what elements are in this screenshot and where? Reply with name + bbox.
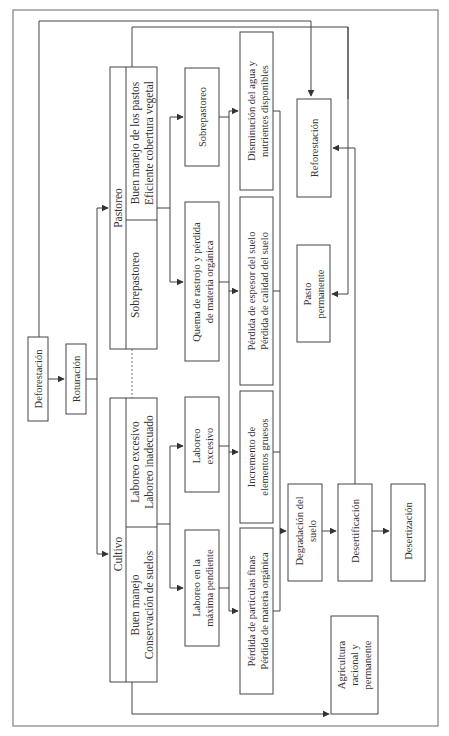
node-label-line-1: Agricultura bbox=[336, 640, 347, 689]
node-perdida-espesor: Pérdida de espesor del suelo Pérdida de … bbox=[240, 197, 273, 385]
group-title: Pastoreo bbox=[112, 188, 124, 228]
practice-good-1: Buen manejo de los pastos bbox=[129, 81, 142, 204]
node-label-line-1: Incremento de bbox=[246, 426, 257, 487]
practice-bad-1: Sobrepastoreo bbox=[129, 252, 142, 318]
node-quema: Quema de rastrojo y pérdida de materia o… bbox=[185, 202, 219, 361]
node-label-line-1: Laboreo bbox=[191, 429, 202, 464]
node-disminucion: Disminución del agua y nutrientes dispon… bbox=[240, 32, 273, 190]
node-label: Deforestación bbox=[33, 349, 44, 409]
node-label-line-2: nutrientes disponibles bbox=[259, 65, 270, 157]
practice-good-1: Buen manejo bbox=[129, 574, 142, 635]
node-desertizacion: Desertización bbox=[391, 484, 425, 581]
node-laboreo-pendiente: Laboreo en la máxima pendiente bbox=[185, 530, 219, 646]
node-label-line-1: Pasto bbox=[302, 283, 313, 306]
node-label-line-2: excesivo bbox=[204, 428, 215, 465]
node-label-line-2: de materia orgánica bbox=[204, 240, 215, 323]
arrow-to-sobrepastoreo bbox=[157, 117, 183, 208]
arrow-desertificacion-to-reforestacion bbox=[333, 148, 355, 484]
node-label: Desertificación bbox=[350, 498, 361, 563]
node-incremento: Incremento de elementos gruesos bbox=[240, 391, 273, 523]
node-agricultura: Agricultura racional y permanente bbox=[331, 616, 378, 714]
node-label-line-1: Disminución del agua y bbox=[246, 60, 257, 161]
node-label-line-2: suelo bbox=[307, 520, 318, 542]
node-perdida-particulas: Pérdida de partículas finas Pérdida de m… bbox=[240, 528, 273, 694]
practice-good-2: Conservación de suelos bbox=[143, 550, 155, 659]
node-label: Reforestación bbox=[309, 118, 320, 177]
practice-bad-2: Laboreo inadecuado bbox=[143, 415, 155, 509]
node-label: Desertización bbox=[403, 501, 414, 559]
node-label-line-2: Pérdida de calidad del suelo bbox=[259, 232, 270, 350]
arrow-to-laboreo-excesivo bbox=[157, 446, 183, 524]
practice-good-2: Eficiente cobertura vegetal bbox=[143, 81, 156, 205]
node-label-line-3: permanente bbox=[362, 640, 373, 689]
node-label-line-1: Laboreo en la bbox=[191, 559, 202, 617]
practice-bad-1: Laboreo excesivo bbox=[129, 421, 141, 503]
node-cultivo-group: Cultivo Laboreo excesivo Laboreo inadecu… bbox=[110, 398, 157, 682]
node-label-line-2: permanente bbox=[315, 269, 326, 318]
node-label-line-2: racional y bbox=[349, 643, 360, 685]
node-reforestacion: Reforestación bbox=[297, 99, 331, 197]
node-label-line-2: Pérdida de materia orgánica bbox=[259, 552, 270, 670]
node-pasto-permanente: Pasto permanente bbox=[297, 245, 330, 342]
node-label-line-1: Degradación del bbox=[294, 496, 305, 565]
node-label: Sobrepastoreo bbox=[197, 87, 208, 147]
node-roturacion: Roturación bbox=[66, 344, 86, 414]
node-pastoreo-group: Pastoreo Buen manejo de los pastos Efici… bbox=[110, 67, 157, 349]
node-label-line-2: máxima pendiente bbox=[204, 549, 215, 627]
arrow-to-pasto-permanente bbox=[332, 27, 348, 294]
arrow-to-agricultura bbox=[132, 682, 329, 714]
node-desertificacion: Desertificación bbox=[338, 484, 372, 581]
arrow-to-quema bbox=[170, 208, 183, 282]
arrow-to-laboreo-pendiente bbox=[170, 524, 183, 588]
node-laboreo-excesivo: Laboreo excesivo bbox=[185, 397, 219, 492]
node-label-line-1: Pérdida de partículas finas bbox=[246, 555, 257, 666]
node-deforestacion: Deforestación bbox=[28, 337, 48, 421]
flowchart-canvas: Deforestación Roturación Pastoreo Buen m… bbox=[0, 0, 449, 736]
node-label-line-1: Pérdida de espesor del suelo bbox=[246, 232, 257, 351]
node-sobrepastoreo: Sobrepastoreo bbox=[185, 68, 219, 166]
group-title: Cultivo bbox=[112, 537, 124, 572]
node-degradacion: Degradación del suelo bbox=[288, 484, 322, 581]
node-label: Roturación bbox=[71, 355, 82, 402]
node-label-line-1: Quema de rastrojo y pérdida bbox=[191, 222, 202, 342]
node-label-line-2: elementos gruesos bbox=[259, 418, 270, 495]
